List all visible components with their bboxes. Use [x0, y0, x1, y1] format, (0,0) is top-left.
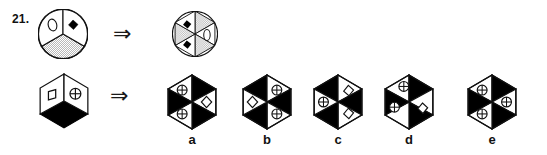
- option-a[interactable]: [166, 74, 218, 130]
- implies-arrow-row1: ⇒: [113, 23, 131, 45]
- circle-cross-icon-lower: [177, 109, 187, 119]
- circle-cross-icon-right: [502, 97, 512, 107]
- circle-cross-icon-upper: [399, 82, 409, 92]
- option-b[interactable]: [241, 74, 293, 130]
- circle-cross-icon: [70, 88, 81, 99]
- option-e-label: e: [477, 132, 507, 147]
- circle-cross-icon-lower: [272, 109, 282, 119]
- option-b-label: b: [252, 132, 282, 147]
- white-square-outline-icon: [48, 90, 55, 100]
- question-number: 21.: [12, 12, 29, 26]
- question-sheet: 21. ⇒: [0, 0, 547, 155]
- option-a-label: a: [177, 132, 207, 147]
- option-c[interactable]: [312, 74, 364, 130]
- ellipse-outline-icon: [204, 29, 210, 40]
- circle-cross-icon-upper: [177, 85, 187, 95]
- option-d[interactable]: [383, 74, 435, 130]
- option-c-label: c: [323, 132, 353, 147]
- prompt-hexagon-3-face: [38, 73, 90, 129]
- circle-cross-icon-left: [390, 102, 400, 112]
- option-e[interactable]: [466, 74, 518, 130]
- circle-cross-icon-lower: [477, 109, 487, 119]
- option-d-label: d: [394, 132, 424, 147]
- circle-cross-icon-upper: [477, 85, 487, 95]
- circle-cross-icon-upper: [272, 85, 282, 95]
- circle-cross-icon-left: [319, 97, 329, 107]
- prompt-circle-3-sector: [38, 9, 88, 59]
- implies-arrow-row2: ⇒: [110, 85, 128, 107]
- result-circle-6-sector: [172, 11, 218, 57]
